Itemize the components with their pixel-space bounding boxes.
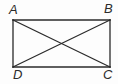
- vertex-label-a: A: [9, 3, 18, 16]
- vertex-label-c: C: [103, 68, 112, 81]
- geometry-figure: A B C D: [0, 0, 118, 84]
- vertex-label-d: D: [13, 68, 22, 81]
- vertex-label-b: B: [104, 2, 113, 15]
